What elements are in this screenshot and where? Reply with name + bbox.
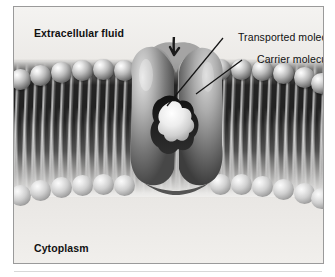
label-carrier-molecule: Carrier molecule	[257, 53, 324, 65]
carrier-molecule-illustration	[124, 37, 230, 197]
phospholipid-head	[273, 179, 294, 200]
phospholipid-head	[72, 60, 93, 81]
panel-under-rule	[14, 271, 322, 272]
carrier-highlight-left	[139, 59, 153, 91]
label-transported-molecule: Transported molecule	[238, 31, 324, 43]
phospholipid-head	[72, 175, 93, 196]
carrier-highlight-right	[202, 62, 214, 92]
label-cytoplasm: Cytoplasm	[34, 242, 89, 254]
phospholipid-head	[30, 65, 51, 86]
phospholipid-head	[51, 177, 72, 198]
label-extracellular-fluid: Extracellular fluid	[34, 27, 124, 39]
phospholipid-head	[51, 62, 72, 83]
phospholipid-head	[30, 180, 51, 201]
phospholipid-head	[93, 59, 114, 80]
phospholipid-head	[273, 63, 294, 84]
phospholipid-head	[93, 174, 114, 195]
figure-container: Extracellular fluid Cytoplasm Transporte…	[0, 0, 335, 277]
illustration-panel: Extracellular fluid Cytoplasm Transporte…	[13, 6, 324, 264]
phospholipid-head	[231, 174, 252, 195]
phospholipid-head	[231, 59, 252, 80]
phospholipid-head	[252, 176, 273, 197]
